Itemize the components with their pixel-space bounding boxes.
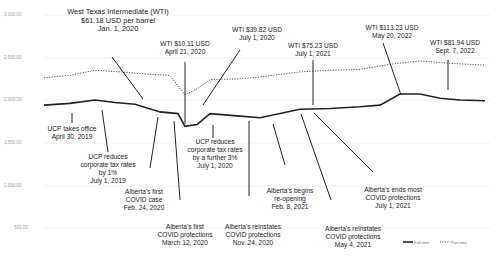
annotation-wti-jan2020: West Texas Intermediate (WTI) $61.18 USD… (58, 8, 178, 34)
annotation-reopening: Alberta's begins re-opening Feb. 8, 2021 (258, 187, 322, 211)
annotation-wti-jul2020: WTI $39.82 USD July 1, 2020 (222, 26, 292, 42)
annotation-ends-protections: Alberta's ends most COVID protections Ju… (356, 186, 430, 210)
legend-part-time: Part-time (451, 240, 467, 245)
annotation-wti-sep2022: WTI $81.94 USD Sept. 7, 2022 (420, 39, 490, 55)
annotation-first-protections: Alberta's first COVID protections March … (150, 223, 220, 247)
annotation-reinstate-may2021: Alberta's reinstates COVID protections M… (316, 225, 390, 249)
annotation-ucp-office: UCP takes office April 30, 2019 (40, 125, 104, 141)
annotation-wti-may2022: WTI $113.23 USD May 20, 2022 (355, 24, 429, 40)
annotation-wti-apr2020: WTI $10.11 USD April 21, 2020 (150, 40, 220, 56)
annotation-wti-jul2021: WTI $75.23 USD July 1, 2021 (278, 42, 348, 58)
full-time-line (44, 94, 485, 126)
legend-full-time: Full-time (414, 240, 429, 245)
annotation-reinstate-nov2020: Alberta's reinstates COVID protections N… (216, 223, 290, 247)
annotation-ucp-tax1: UCP reduces corporate tax rates by 1% Ju… (70, 153, 146, 185)
annotation-ucp-tax3: UCP reduces corporate tax rates by a fur… (180, 138, 250, 170)
legend-part-time-label: Part-time (451, 240, 467, 245)
part-time-line (44, 61, 485, 95)
legend-full-time-label: Full-time (414, 240, 429, 245)
annotation-first-case: Alberta's first COVID case Feb. 24, 2020 (114, 188, 174, 212)
